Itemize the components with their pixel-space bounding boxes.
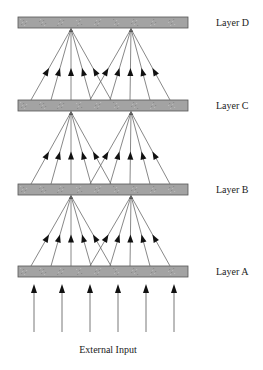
- arrowhead-icon: [114, 68, 120, 77]
- fan-a-to-b-2: [90, 195, 170, 266]
- layer-a-bar: [18, 266, 188, 277]
- arrowhead-icon: [42, 152, 49, 160]
- arrowhead-icon: [68, 235, 74, 243]
- layer-b-bar: [18, 184, 188, 195]
- layer-d-label: Layer D: [216, 17, 249, 29]
- arrowhead-icon: [141, 68, 147, 77]
- fan-connections: [31, 28, 170, 266]
- arrowhead-icon: [81, 235, 87, 244]
- arrowhead-icon: [55, 68, 61, 77]
- arrowhead-icon: [127, 152, 133, 160]
- arrowhead-icon: [93, 68, 100, 76]
- arrowhead-icon: [127, 68, 133, 76]
- external-input-arrows: [31, 284, 177, 332]
- external-input-arrow-1: [31, 284, 37, 332]
- arrowhead-icon: [42, 68, 49, 76]
- external-input-arrow-3: [87, 284, 93, 332]
- arrowhead-icon: [152, 235, 159, 243]
- external-input-arrow-5: [143, 284, 149, 332]
- layer-a-label: Layer A: [216, 266, 249, 278]
- arrowhead-icon: [87, 284, 93, 293]
- arrowhead-icon: [114, 235, 120, 244]
- layer-d-bar: [18, 17, 188, 28]
- arrowhead-icon: [171, 284, 177, 293]
- layer-b-label: Layer B: [216, 184, 249, 196]
- fan-a-to-b-1: [31, 195, 111, 266]
- arrowhead-icon: [81, 152, 87, 161]
- external-input-label: External Input: [48, 344, 168, 356]
- arrowhead-icon: [102, 235, 109, 243]
- layer-c-bar: [18, 100, 188, 111]
- arrowhead-icon: [93, 235, 100, 243]
- arrowhead-icon: [115, 284, 121, 293]
- fan-b-to-c-2: [90, 111, 170, 184]
- layer-c-label: Layer C: [216, 100, 249, 112]
- arrowhead-icon: [31, 284, 37, 293]
- arrowhead-icon: [55, 152, 61, 161]
- fan-c-to-d-2: [90, 28, 170, 100]
- external-input-arrow-6: [171, 284, 177, 332]
- arrowhead-icon: [141, 152, 147, 161]
- fan-b-to-c-1: [31, 111, 111, 184]
- arrowhead-icon: [59, 284, 65, 293]
- arrowhead-icon: [55, 235, 61, 244]
- arrowhead-icon: [93, 152, 100, 160]
- arrowhead-icon: [81, 68, 87, 77]
- arrowhead-icon: [143, 284, 149, 293]
- layer-bars: [18, 17, 188, 277]
- arrowhead-icon: [68, 152, 74, 160]
- arrowhead-icon: [102, 152, 109, 160]
- fan-c-to-d-1: [31, 28, 111, 100]
- arrowhead-icon: [152, 68, 158, 76]
- arrowhead-icon: [127, 235, 133, 243]
- external-input-arrow-4: [115, 284, 121, 332]
- arrowhead-icon: [42, 235, 49, 243]
- arrowhead-icon: [68, 68, 74, 76]
- arrowhead-icon: [102, 68, 109, 76]
- arrowhead-icon: [141, 235, 147, 244]
- arrowhead-icon: [114, 152, 120, 161]
- external-input-arrow-2: [59, 284, 65, 332]
- arrowhead-icon: [152, 152, 158, 160]
